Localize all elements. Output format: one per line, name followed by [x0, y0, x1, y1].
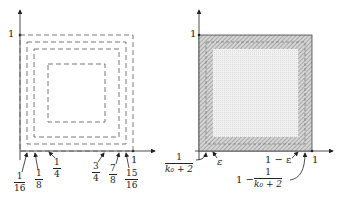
label-one-minus-prefix: 1 −	[236, 175, 254, 185]
left-diagram	[19, 10, 155, 172]
label-one-minus-frac: 1k₀ + 2	[254, 168, 282, 189]
diagram-canvas	[0, 0, 343, 206]
label-one-minus-epsilon: 1 − ε	[265, 155, 291, 165]
label-1-over-k0-plus-2: 1k₀ + 2	[165, 153, 193, 174]
label-epsilon: ε	[217, 157, 222, 167]
right-y-one-label: 1	[190, 29, 196, 39]
tick-label-3-4: 34	[92, 162, 100, 183]
tick-label-15-16: 1516	[125, 169, 138, 190]
dotted-inner-square	[213, 49, 298, 137]
tick-label-7-8: 78	[109, 164, 117, 185]
tick-label-1-8: 18	[35, 169, 43, 190]
tick-label-1-4: 14	[53, 158, 61, 179]
right-x-one-label: 1	[312, 155, 318, 165]
left-x-one-label: 1	[131, 155, 137, 165]
left-y-one-label: 1	[8, 29, 14, 39]
nested-dashed-squares	[20, 35, 133, 151]
tick-label-1-16: 116	[14, 172, 25, 193]
